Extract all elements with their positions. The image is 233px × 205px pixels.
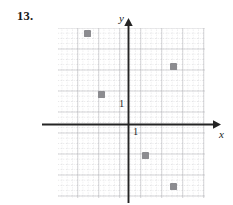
y-axis-arrow xyxy=(124,18,132,26)
data-point xyxy=(170,63,177,70)
coordinate-grid xyxy=(58,28,205,198)
y-axis-label: y xyxy=(119,12,124,24)
y-axis-tick-label-1: 1 xyxy=(119,98,124,109)
x-axis-tick-label-1: 1 xyxy=(133,126,138,137)
data-point xyxy=(142,152,149,159)
data-point xyxy=(170,183,177,190)
graph-figure: 13. y x 1 1 xyxy=(0,0,233,205)
data-point xyxy=(84,30,91,37)
problem-number: 13. xyxy=(17,9,33,24)
x-axis-label: x xyxy=(219,128,224,140)
data-point xyxy=(98,91,105,98)
plot-area xyxy=(58,28,205,198)
